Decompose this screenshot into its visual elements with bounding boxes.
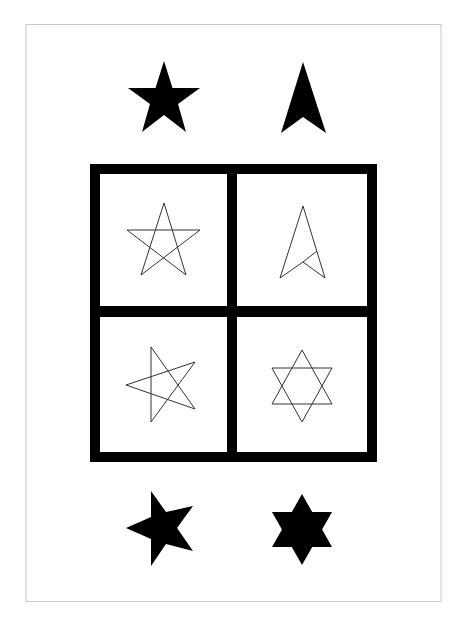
puzzle-canvas [0,0,467,634]
grid-horizontal-divider [95,306,372,317]
